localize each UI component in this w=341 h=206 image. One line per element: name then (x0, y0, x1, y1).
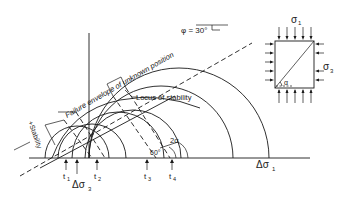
delta-sigma1-sub: 1 (272, 166, 276, 172)
alpha-label: α (284, 79, 288, 86)
t4-arrowhead (170, 159, 174, 163)
t2-sub: 2 (98, 176, 101, 182)
phi-angle-mark (212, 25, 220, 30)
stability-label: +Stability (26, 120, 43, 150)
two-alpha-label: 2α (170, 136, 179, 145)
stress-element: σ 1 σ 3 α (265, 14, 334, 103)
angle-60-label: 60° (150, 149, 161, 156)
delta-sigma3-sub: 3 (88, 186, 92, 192)
t3-label: t (144, 172, 147, 181)
mohr-circle-4 (85, 110, 181, 158)
failure-envelope-label: Failure envelope of unknown position (64, 50, 176, 120)
t4-label: t (169, 172, 172, 181)
t1-label: t (63, 172, 66, 181)
t4-sub: 4 (173, 176, 176, 182)
t3-sub: 3 (148, 176, 151, 182)
stability-bracket-2 (45, 125, 55, 145)
sigma3-label: σ (323, 61, 330, 72)
t3-arrowhead (145, 159, 149, 163)
locus-label: Locus of stability (136, 93, 192, 102)
phi-label: φ = 30° (181, 26, 207, 35)
mohr-circle-diagram: φ = 30° Failure envelope of unknown posi… (0, 0, 341, 206)
delta-sigma3-label: Δσ (72, 179, 86, 190)
bottom-arrows (278, 89, 313, 103)
angle-arc-60 (169, 147, 176, 158)
sigma1-sub: 1 (298, 20, 302, 26)
sigma1-label: σ (291, 14, 298, 25)
top-arrows (278, 27, 313, 40)
sigma3-arrowhead (75, 159, 79, 163)
sigma3-sub: 3 (330, 68, 334, 74)
t1-arrowhead (64, 159, 68, 163)
stability-leader (14, 142, 30, 150)
left-arrows (265, 43, 274, 82)
tangent-line (40, 96, 175, 168)
t1-sub: 1 (67, 176, 70, 182)
t2-arrowhead (95, 159, 99, 163)
alpha-arc (280, 82, 282, 86)
failure-plane-line (275, 41, 314, 88)
stability-bracket-1 (45, 120, 64, 125)
delta-sigma1-label: Δσ (256, 159, 270, 170)
failure-envelope-line (20, 43, 252, 176)
t2-label: t (94, 172, 97, 181)
